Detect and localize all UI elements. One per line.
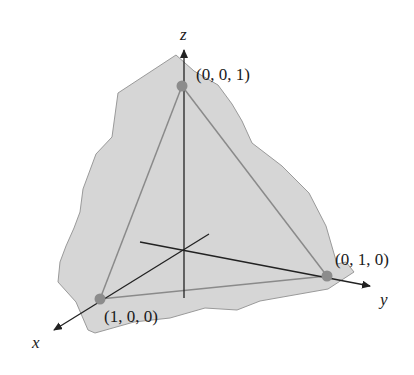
point-1-0-0 xyxy=(95,294,106,305)
x-axis-label: x xyxy=(31,333,40,352)
coordinate-diagram: z y x (0, 0, 1) (0, 1, 0) (1, 0, 0) xyxy=(0,0,414,375)
z-axis-label: z xyxy=(179,25,187,44)
label-1-0-0: (1, 0, 0) xyxy=(104,307,158,326)
label-0-1-0: (0, 1, 0) xyxy=(335,250,389,269)
point-0-0-1 xyxy=(177,81,188,92)
point-0-1-0 xyxy=(322,271,333,282)
y-axis-label: y xyxy=(378,290,388,309)
label-0-0-1: (0, 0, 1) xyxy=(196,65,250,84)
